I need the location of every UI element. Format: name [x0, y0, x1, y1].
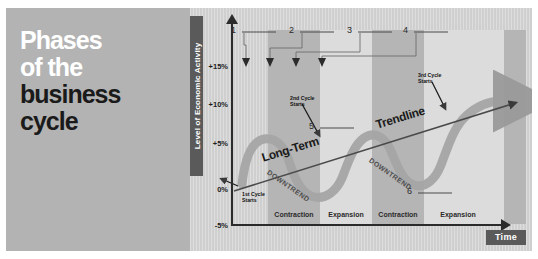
chart-panel: Level of Economic Activity +15% +10% +5%…: [190, 8, 532, 251]
y-axis-arrow-icon: [226, 14, 238, 24]
phase-label-contraction-1: Contraction: [268, 211, 320, 218]
annotation-1st-cycle-line2: Starts: [242, 197, 265, 203]
title-panel: Phases of the business cycle: [6, 8, 190, 251]
callout-number-5: 5: [309, 121, 314, 131]
callout-leaders: [244, 33, 416, 58]
callout-number-4: 4: [403, 25, 408, 35]
annotation-3rd-cycle: 3rd Cycle Starts: [418, 72, 441, 85]
annotation-2nd-cycle-line2: Starts: [290, 101, 315, 107]
callout-markers: [242, 58, 326, 67]
phase-label-expansion-2: Expansion: [428, 211, 488, 218]
annotation-arrows: [224, 82, 444, 186]
title-line-3: business: [20, 82, 120, 107]
callout-number-3: 3: [347, 25, 352, 35]
annotation-2nd-cycle: 2nd Cycle Starts: [290, 95, 315, 108]
y-axis-line: [231, 22, 233, 226]
title-line-2: of the: [20, 55, 82, 80]
x-axis-line: [231, 224, 503, 226]
phase-label-expansion-1: Expansion: [320, 211, 372, 218]
infographic-root: Phases of the business cycle Level of Ec…: [0, 0, 538, 259]
callout-number-2: 2: [289, 25, 294, 35]
phase-label-contraction-2: Contraction: [372, 211, 424, 218]
x-axis-title: Time: [495, 232, 517, 242]
annotation-3rd-cycle-line2: Starts: [418, 78, 441, 84]
title-line-4: cycle: [20, 109, 78, 134]
title-line-1: Phases: [20, 28, 102, 53]
annotation-1st-cycle: 1st Cycle Starts: [242, 191, 265, 204]
x-axis-title-bar: Time: [486, 230, 526, 245]
